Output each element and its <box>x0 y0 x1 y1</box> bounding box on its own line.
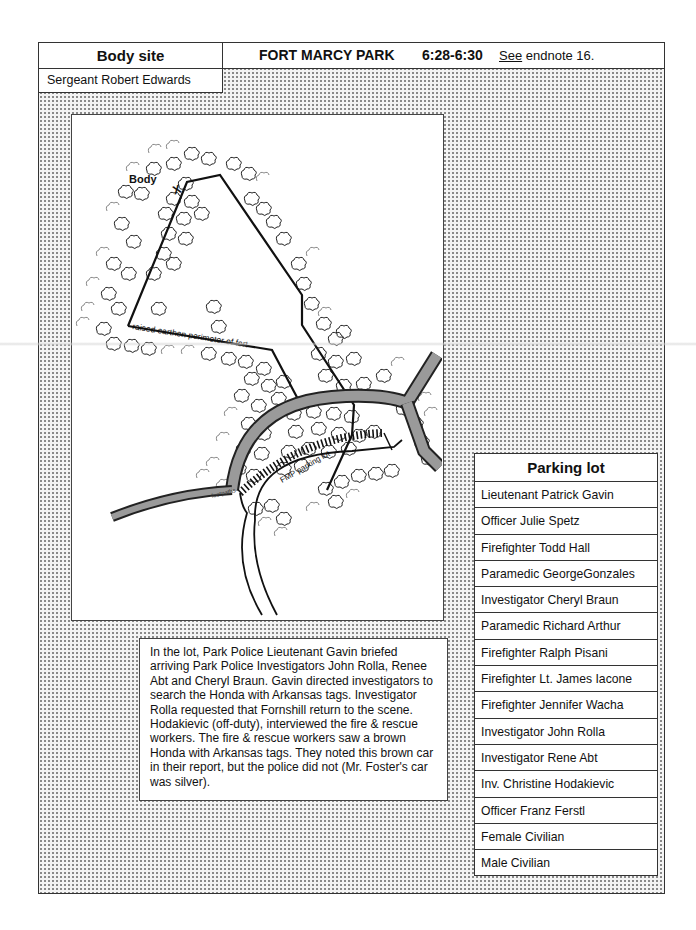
body-site-personnel-row: Sergeant Robert Edwards <box>39 69 223 93</box>
site-map: Body X raised earthen perimeter of fort … <box>71 114 444 621</box>
personnel-row: Inv. Christine Hodakievic <box>475 771 657 797</box>
site-map-drawing: Body X raised earthen perimeter of fort … <box>72 115 442 619</box>
personnel-row: Investigator Rene Abt <box>475 745 657 771</box>
tree-cluster-icon <box>311 347 404 392</box>
personnel-row: Firefighter Todd Hall <box>475 535 657 561</box>
header-row: Body site FORT MARCY PARK 6:28-6:30 See … <box>39 43 664 69</box>
see-link: See <box>499 48 522 63</box>
tree-cluster-icon <box>146 177 226 333</box>
section-label-body-site: Body site <box>39 43 223 68</box>
personnel-row: Female Civilian <box>475 824 657 850</box>
location-title: FORT MARCY PARK <box>259 43 395 68</box>
personnel-row: Investigator John Rolla <box>475 719 657 745</box>
body-x-marker-icon: X <box>171 182 183 198</box>
personnel-row: Firefighter Jennifer Wacha <box>475 692 657 718</box>
endnote-reference: See endnote 16. <box>499 43 594 68</box>
personnel-row: Officer Franz Ferstl <box>475 798 657 824</box>
parking-lot-personnel-table: Parking lot Lieutenant Patrick Gavin Off… <box>474 453 658 876</box>
road <box>112 355 440 517</box>
personnel-row: Investigator Cheryl Braun <box>475 587 657 613</box>
endnote-text: endnote 16. <box>522 48 594 63</box>
tree-cluster-icon <box>76 140 351 345</box>
personnel-row: Firefighter Lt. James Iacone <box>475 666 657 692</box>
personnel-row: Paramedic Richard Arthur <box>475 613 657 639</box>
personnel-row: Paramedic GeorgeGonzales <box>475 561 657 587</box>
personnel-row: Officer Julie Spetz <box>475 508 657 534</box>
personnel-row: Firefighter Ralph Pisani <box>475 640 657 666</box>
tree-cluster-icon <box>106 337 291 488</box>
narrative-note: In the lot, Park Police Lieutenant Gavin… <box>139 638 448 801</box>
tree-cluster-icon <box>276 405 381 475</box>
time-range: 6:28-6:30 <box>422 43 483 68</box>
body-label: Body <box>129 173 157 185</box>
personnel-row: Lieutenant Patrick Gavin <box>475 482 657 508</box>
document-frame: Body site FORT MARCY PARK 6:28-6:30 See … <box>38 42 665 894</box>
personnel-row: Male Civilian <box>475 850 657 876</box>
parking-lot-title: Parking lot <box>475 454 657 482</box>
